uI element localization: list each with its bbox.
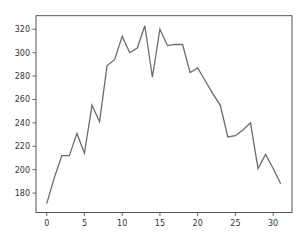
y-axis: 180200220240260280300320 [15,25,36,198]
x-tick-label: 10 [117,219,127,228]
y-tick-label: 240 [15,119,30,128]
y-tick-label: 300 [15,49,30,58]
x-tick-label: 0 [44,219,49,228]
y-tick-label: 320 [15,25,30,34]
x-tick-label: 15 [155,219,165,228]
y-tick-label: 220 [15,142,30,151]
y-tick-label: 260 [15,95,30,104]
x-tick-label: 25 [230,219,240,228]
y-tick-label: 180 [15,189,30,198]
axes-frame [36,16,292,213]
x-tick-label: 20 [193,219,203,228]
y-tick-label: 200 [15,166,30,175]
x-tick-label: 5 [82,219,87,228]
series-line-0 [47,26,281,204]
x-tick-label: 30 [268,219,278,228]
x-axis: 051015202530 [44,213,278,228]
y-tick-label: 280 [15,72,30,81]
axes-spines [36,16,292,213]
data-line [47,26,281,204]
line-chart: 051015202530 180200220240260280300320 [0,0,306,237]
